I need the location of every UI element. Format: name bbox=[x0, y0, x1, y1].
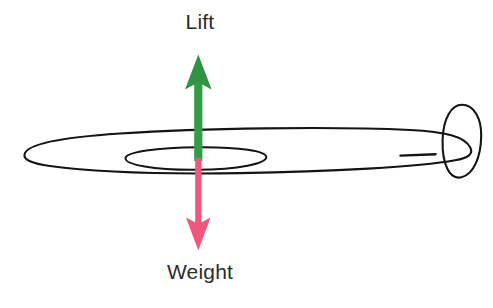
tail-fin-outline bbox=[443, 105, 482, 178]
lift-label: Lift bbox=[0, 11, 493, 32]
force-diagram-figure: Lift Weight bbox=[0, 0, 493, 308]
lift-arrow bbox=[185, 55, 212, 162]
wing-detail-line bbox=[401, 154, 436, 155]
airplane bbox=[24, 105, 481, 178]
weight-label: Weight bbox=[0, 261, 493, 282]
lift-arrow-shaft bbox=[194, 80, 202, 161]
weight-arrow-shaft bbox=[195, 158, 201, 226]
weight-arrow bbox=[186, 158, 211, 251]
